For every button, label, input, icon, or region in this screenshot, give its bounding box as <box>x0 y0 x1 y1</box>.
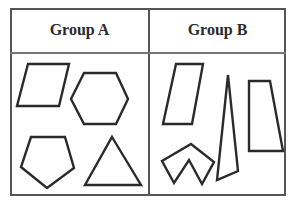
chevron-shape <box>162 144 214 184</box>
pentagon-shape <box>21 137 74 188</box>
thin-triangle-shape <box>217 75 238 180</box>
tall-parallelogram-shape <box>163 64 203 124</box>
trapezoid-shape <box>249 81 283 151</box>
hexagon-shape <box>71 73 128 124</box>
parallelogram-shape <box>17 64 69 106</box>
group-b-shapes <box>162 64 283 184</box>
shapes-canvas <box>0 0 299 204</box>
triangle-shape <box>85 137 141 185</box>
group-a-shapes <box>17 64 141 188</box>
